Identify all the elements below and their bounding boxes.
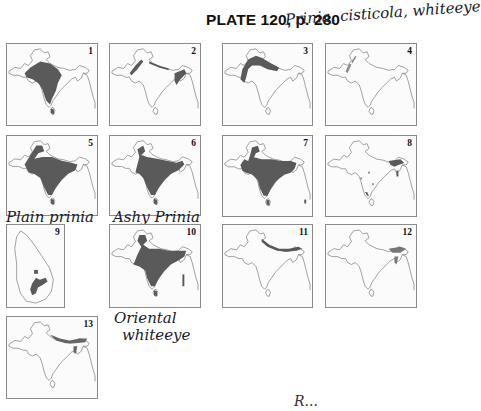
range-map-6 xyxy=(110,136,200,215)
range-map-3 xyxy=(223,44,312,125)
handwritten-fragment-bottom: R... xyxy=(294,394,318,408)
range-map-1 xyxy=(7,44,97,125)
map-number: 12 xyxy=(403,227,413,237)
range-map-13 xyxy=(7,317,97,398)
map-number: 3 xyxy=(303,46,308,56)
map-panel-13: 13 xyxy=(6,316,98,399)
map-panel-8: 8 xyxy=(325,135,417,217)
map-number: 1 xyxy=(88,46,93,56)
range-map-4 xyxy=(326,44,416,125)
map-panel-9: 9 xyxy=(6,224,65,308)
map-panel-5: 5 xyxy=(6,135,98,216)
map-panel-1: 1 xyxy=(6,43,98,126)
map-panel-10: 10 xyxy=(109,224,201,308)
range-map-5 xyxy=(7,136,97,215)
map-number: 6 xyxy=(191,138,196,148)
range-map-sri-lanka-9 xyxy=(7,225,64,307)
map-panel-3: 3 xyxy=(222,43,313,126)
handwritten-annotation-top: Prinia, cisticola, whiteeye xyxy=(285,0,481,28)
map-number: 7 xyxy=(303,138,308,148)
range-map-10 xyxy=(110,225,200,307)
map-panel-4: 4 xyxy=(325,43,417,126)
range-map-12 xyxy=(326,225,416,307)
range-map-11 xyxy=(223,225,312,307)
map-number: 13 xyxy=(84,319,94,329)
map-panel-7: 7 xyxy=(222,135,313,217)
map-number: 8 xyxy=(407,138,412,148)
range-map-2 xyxy=(110,44,200,125)
map-panel-12: 12 xyxy=(325,224,417,308)
map-number: 11 xyxy=(299,227,308,237)
handwritten-label-plain-prinia: Plain prinia xyxy=(6,210,94,225)
map-panel-6: 6 xyxy=(109,135,201,216)
handwritten-label-oriental-whiteeye: Oriental whiteeye xyxy=(114,310,190,344)
map-number: 5 xyxy=(88,138,93,148)
map-number: 4 xyxy=(407,46,412,56)
map-panel-11: 11 xyxy=(222,224,313,308)
handwritten-label-ashy-prinia: Ashy Prinia xyxy=(113,210,200,225)
map-number: 10 xyxy=(187,227,197,237)
map-number: 9 xyxy=(55,227,60,237)
map-panel-2: 2 xyxy=(109,43,201,126)
map-number: 2 xyxy=(191,46,196,56)
range-map-8 xyxy=(326,136,416,216)
range-map-7 xyxy=(223,136,312,216)
